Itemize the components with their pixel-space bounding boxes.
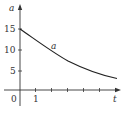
origin-label: 0	[11, 94, 17, 104]
y-axis-arrow-icon	[18, 4, 22, 10]
decay-curve	[20, 29, 117, 79]
y-tick-15: 15	[4, 24, 16, 34]
x-axis-label: t	[113, 94, 117, 104]
curve-label: a	[51, 41, 56, 51]
x-axis-arrow-icon	[115, 88, 121, 92]
chart-canvas: a t 15 10 5 0 1 a	[0, 0, 124, 114]
y-tick-10: 10	[4, 45, 16, 55]
y-tick-5: 5	[10, 66, 16, 76]
x-tick-1: 1	[33, 94, 39, 104]
y-axis-label: a	[9, 3, 14, 13]
